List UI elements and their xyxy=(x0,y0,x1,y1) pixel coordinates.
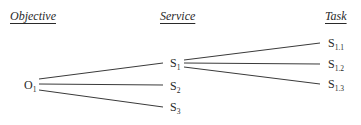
node-s1-1-sub: 1.1 xyxy=(335,43,344,52)
node-o1-sub: 1 xyxy=(33,85,37,94)
edge-s1-s12 xyxy=(184,63,320,64)
node-s1-1: S1.1 xyxy=(328,37,344,54)
node-s1-2-base: S xyxy=(328,57,335,71)
node-s1-base: S xyxy=(170,56,177,70)
node-s3-base: S xyxy=(170,100,177,114)
node-s3-sub: 3 xyxy=(177,107,181,116)
node-s2: S2 xyxy=(170,80,180,97)
node-s1-1-base: S xyxy=(328,36,335,50)
node-s1-3-sub: 1.3 xyxy=(335,84,344,93)
edge-o1-s3 xyxy=(39,90,163,107)
node-s1-3-base: S xyxy=(328,77,335,91)
node-s2-base: S xyxy=(170,79,177,93)
node-s2-sub: 2 xyxy=(177,86,181,95)
edge-s1-s13 xyxy=(184,67,320,84)
edges xyxy=(0,0,361,125)
node-o1: O1 xyxy=(24,79,36,96)
node-s1-sub: 1 xyxy=(177,63,181,72)
node-s1-2-sub: 1.2 xyxy=(335,64,344,73)
edge-s1-s11 xyxy=(184,43,320,60)
edge-o1-s1 xyxy=(39,63,163,79)
node-s1: S1 xyxy=(170,57,180,74)
node-s1-2: S1.2 xyxy=(328,58,344,75)
edge-o1-s2 xyxy=(39,84,163,85)
node-o1-base: O xyxy=(24,78,33,92)
node-s1-3: S1.3 xyxy=(328,78,344,95)
node-s3: S3 xyxy=(170,101,180,118)
